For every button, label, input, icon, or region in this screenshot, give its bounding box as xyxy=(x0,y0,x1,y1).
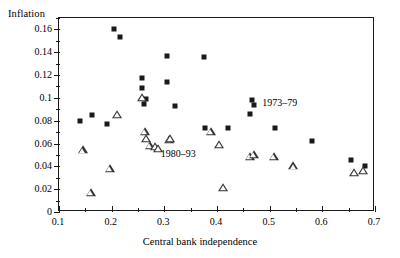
y-tick-label: 0.12 xyxy=(0,69,52,80)
data-point xyxy=(118,35,123,40)
x-tick-major xyxy=(164,206,165,212)
data-point xyxy=(78,118,83,123)
x-tick-minor xyxy=(349,208,350,212)
x-tick-major xyxy=(112,206,113,212)
x-tick-label: 0.7 xyxy=(368,216,381,227)
data-point xyxy=(225,125,230,130)
plot-area xyxy=(58,17,374,211)
y-tick-label: 0 xyxy=(0,206,52,217)
data-point xyxy=(105,122,110,127)
y-tick-minor xyxy=(56,155,60,156)
x-tick-minor xyxy=(85,208,86,212)
data-point xyxy=(78,146,88,154)
x-axis-title: Central bank independence xyxy=(0,236,400,247)
x-tick-major xyxy=(375,206,376,212)
data-point xyxy=(358,166,368,174)
y-tick-label: 0.06 xyxy=(0,137,52,148)
data-point xyxy=(140,85,145,90)
x-tick-major xyxy=(322,206,323,212)
data-point xyxy=(202,54,207,59)
y-tick-label: 0.04 xyxy=(0,160,52,171)
y-tick-label: 0.16 xyxy=(0,23,52,34)
data-point xyxy=(349,157,354,162)
data-point xyxy=(288,162,298,170)
y-tick-label: 0.08 xyxy=(0,114,52,125)
y-tick-major xyxy=(54,98,60,99)
data-point xyxy=(90,113,95,118)
y-tick-major xyxy=(54,144,60,145)
y-axis-title: Inflation xyxy=(8,8,45,19)
x-tick-label: 0.5 xyxy=(262,216,275,227)
data-point xyxy=(218,183,228,191)
data-point xyxy=(249,150,259,158)
x-tick-label: 0.3 xyxy=(157,216,170,227)
scatter-chart: Inflation Central bank independence 00.0… xyxy=(0,0,400,258)
data-point xyxy=(112,110,122,118)
y-tick-minor xyxy=(56,41,60,42)
x-tick-major xyxy=(270,206,271,212)
y-tick-major xyxy=(54,189,60,190)
y-tick-major xyxy=(54,121,60,122)
data-point xyxy=(247,111,252,116)
y-tick-major xyxy=(54,52,60,53)
data-point xyxy=(172,103,177,108)
y-tick-major xyxy=(54,212,60,213)
data-point xyxy=(269,152,279,160)
data-point xyxy=(142,101,147,106)
x-tick-minor xyxy=(191,208,192,212)
y-tick-major xyxy=(54,29,60,30)
legend-marker-square xyxy=(251,102,256,107)
x-tick-label: 0.2 xyxy=(104,216,117,227)
data-point xyxy=(214,140,224,148)
series-annotation-label: 1980–93 xyxy=(161,148,196,159)
x-tick-minor xyxy=(138,208,139,212)
data-point xyxy=(164,53,169,58)
y-tick-minor xyxy=(56,132,60,133)
y-tick-label: 0.1 xyxy=(0,91,52,102)
series-annotation-label: 1973–79 xyxy=(262,97,297,108)
data-point xyxy=(272,125,277,130)
x-tick-minor xyxy=(296,208,297,212)
y-tick-label: 0.02 xyxy=(0,183,52,194)
y-tick-minor xyxy=(56,86,60,87)
data-point xyxy=(164,79,169,84)
x-tick-label: 0.1 xyxy=(52,216,65,227)
data-point xyxy=(140,76,145,81)
y-tick-minor xyxy=(56,64,60,65)
data-point xyxy=(309,139,314,144)
x-tick-minor xyxy=(243,208,244,212)
x-tick-label: 0.4 xyxy=(210,216,223,227)
x-tick-label: 0.6 xyxy=(315,216,328,227)
y-tick-major xyxy=(54,166,60,167)
data-point xyxy=(105,164,115,172)
y-tick-major xyxy=(54,75,60,76)
x-tick-major xyxy=(217,206,218,212)
data-point xyxy=(206,127,216,135)
y-tick-label: 0.14 xyxy=(0,46,52,57)
y-tick-minor xyxy=(56,18,60,19)
data-point xyxy=(86,188,96,196)
y-tick-minor xyxy=(56,109,60,110)
y-tick-minor xyxy=(56,201,60,202)
data-point xyxy=(112,27,117,32)
data-point xyxy=(165,134,175,142)
data-point xyxy=(137,93,147,101)
x-tick-major xyxy=(59,206,60,212)
y-tick-minor xyxy=(56,178,60,179)
